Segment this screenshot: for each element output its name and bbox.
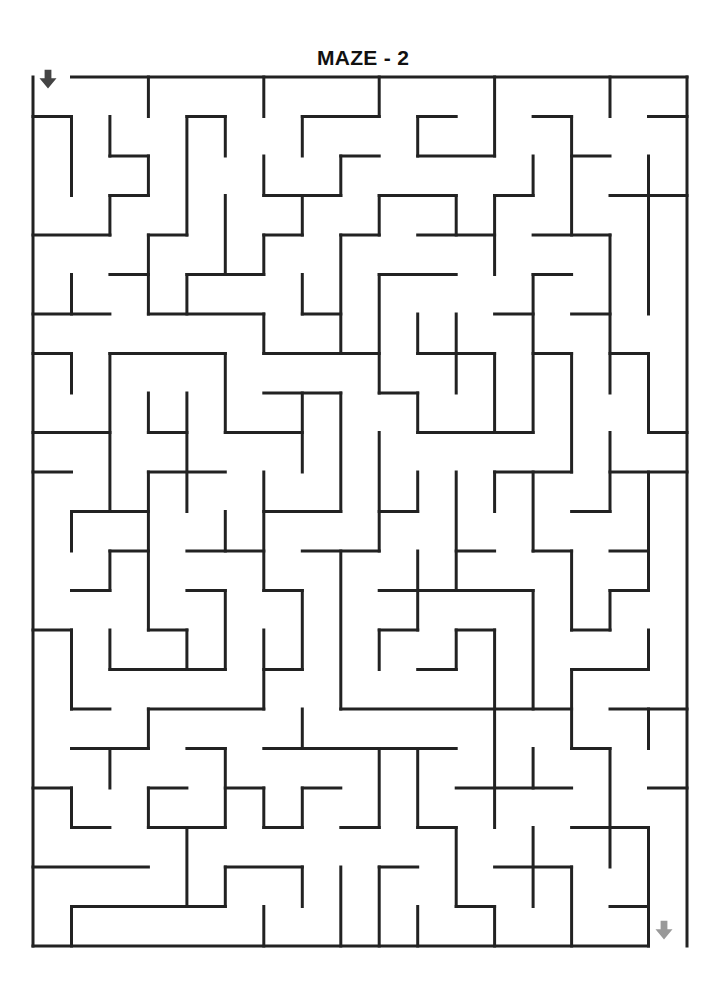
start-arrow-icon: [40, 70, 57, 89]
maze-grid: [0, 0, 726, 985]
maze-walls: [33, 77, 687, 946]
finish-arrow-icon: [656, 921, 673, 940]
